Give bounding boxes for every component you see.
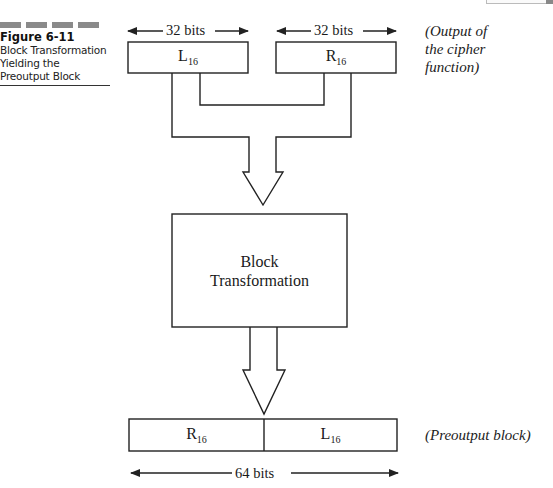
r16-label-name: R: [326, 47, 337, 64]
output-arrow: [243, 327, 285, 414]
preoutput-l16-name: L: [321, 425, 331, 442]
preoutput-r16-name: R: [186, 425, 197, 442]
l16-label-subscript: 16: [188, 56, 198, 67]
input-note-line-3: function): [425, 58, 487, 76]
preoutput-r16-label: R16: [129, 425, 264, 443]
input-note-line-2: the cipher: [425, 40, 487, 58]
preoutput-l16-label: L16: [264, 425, 397, 443]
preoutput-r16-subscript: 16: [197, 434, 207, 445]
preoutput-note: (Preoutput block): [425, 426, 531, 444]
width-label-l16: 32 bits: [164, 22, 207, 38]
process-label-line-2: Transformation: [172, 271, 347, 290]
l16-label: L16: [128, 47, 248, 65]
preoutput-l16-subscript: 16: [330, 434, 340, 445]
r16-label-subscript: 16: [336, 56, 346, 67]
block-transformation-label: Block Transformation: [172, 252, 347, 290]
r16-label: R16: [276, 47, 396, 65]
input-note: (Output of the cipher function): [425, 22, 487, 76]
width-label-r16: 32 bits: [312, 22, 355, 38]
merge-inner-channel: [200, 73, 324, 105]
l16-label-name: L: [178, 47, 188, 64]
process-label-line-1: Block: [172, 252, 347, 271]
input-note-line-1: (Output of: [425, 22, 487, 40]
width-label-64: 64 bits: [233, 465, 276, 481]
